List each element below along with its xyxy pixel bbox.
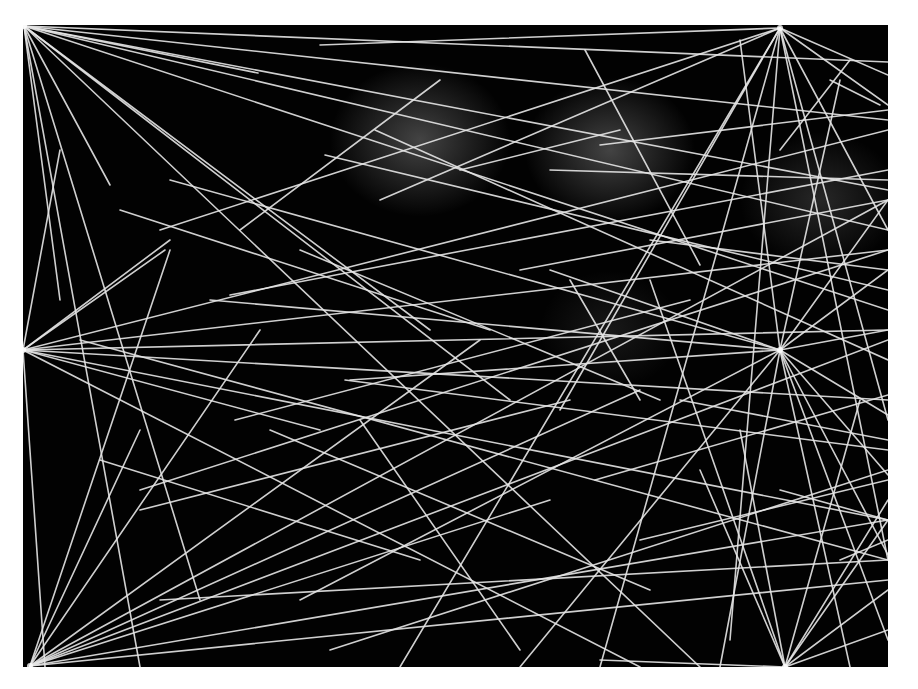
hub-point-right-mid [777, 347, 783, 353]
hub-point-top-right [777, 25, 783, 31]
abstract-line-artwork [0, 0, 918, 689]
